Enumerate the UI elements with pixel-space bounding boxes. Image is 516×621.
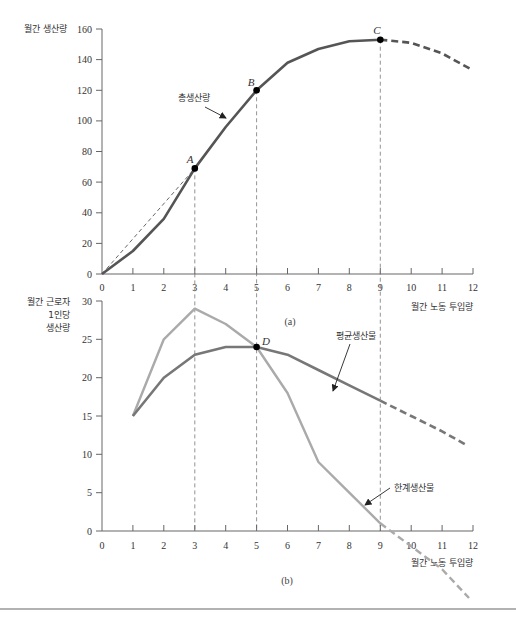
svg-text:60: 60 [82,177,92,188]
svg-text:7: 7 [316,540,321,551]
svg-text:80: 80 [82,146,92,157]
chart-a: 0 20 40 60 80 100 120 140 160 월간 생산량 0 1… [24,23,478,531]
chart-a-y-label: 월간 생산량 [24,23,67,34]
svg-text:12: 12 [468,282,478,293]
svg-text:10: 10 [406,282,416,293]
chart-b-panel-label: (b) [281,575,293,587]
svg-text:2: 2 [161,540,166,551]
average-product-curve-dashed [380,401,468,446]
svg-text:0: 0 [87,526,92,537]
svg-text:20: 20 [82,238,92,249]
svg-text:8: 8 [347,540,352,551]
chart-a-x-label: 월간 노동 투입량 [411,301,473,312]
svg-text:1인당: 1인당 [48,310,70,320]
svg-text:120: 120 [77,85,92,96]
svg-text:7: 7 [316,282,321,293]
svg-text:6: 6 [285,282,290,293]
svg-text:0: 0 [100,540,105,551]
svg-text:9: 9 [378,540,383,551]
ray-origin-to-a [102,168,195,274]
marginal-product-arrow [365,488,390,505]
svg-text:11: 11 [437,540,447,551]
chart-b-y-ticks [96,301,102,531]
svg-text:140: 140 [77,54,92,65]
svg-text:1: 1 [130,540,135,551]
chart-b-x-tick-labels: 0 1 2 3 4 5 6 7 8 9 10 11 12 [100,540,479,551]
chart-b-x-ticks [133,525,473,531]
svg-text:월간 근로자: 월간 근로자 [27,296,71,307]
svg-text:2: 2 [161,282,166,293]
svg-text:25: 25 [82,334,92,345]
svg-text:0: 0 [87,269,92,280]
svg-text:0: 0 [100,282,105,293]
chart-b-y-tick-labels: 0 5 10 15 20 25 30 [82,296,92,537]
svg-text:6: 6 [285,540,290,551]
point-d-label: D [261,335,270,347]
chart-b-x-label: 월간 노동 투입량 [411,557,473,568]
svg-text:20: 20 [82,372,92,383]
chart-a-x-tick-labels: 0 1 2 3 4 5 6 7 8 9 10 11 12 [100,282,479,293]
point-c-label: C [373,24,381,36]
average-product-label: 평균생산물 [336,331,376,341]
total-product-label: 총생산량 [178,92,210,103]
svg-text:4: 4 [223,540,228,551]
chart-b: 0 5 10 15 20 25 30 월간 근로자 1인당 생산량 0 1 2 … [27,296,478,599]
svg-text:15: 15 [82,411,92,422]
svg-text:30: 30 [82,296,92,307]
svg-text:10: 10 [82,449,92,460]
svg-text:5: 5 [87,487,92,498]
svg-text:생산량: 생산량 [46,322,70,333]
point-a-label: A [186,153,194,165]
svg-text:100: 100 [77,115,92,126]
svg-text:1: 1 [130,282,135,293]
chart-a-x-ticks [133,268,473,274]
production-charts: 0 20 40 60 80 100 120 140 160 월간 생산량 0 1… [0,0,516,621]
svg-text:8: 8 [347,282,352,293]
chart-a-panel-label: (a) [284,316,295,328]
marginal-product-label: 한계생산물 [394,482,434,493]
svg-text:3: 3 [192,540,197,551]
chart-b-y-label: 월간 근로자 1인당 생산량 [27,296,71,333]
total-product-curve [102,40,380,274]
chart-a-y-ticks [96,29,102,274]
svg-text:11: 11 [437,282,447,293]
total-product-curve-dashed [380,40,473,71]
point-d [253,344,260,351]
svg-text:160: 160 [77,24,92,35]
svg-text:40: 40 [82,207,92,218]
chart-a-y-tick-labels: 0 20 40 60 80 100 120 140 160 [77,24,92,280]
svg-text:12: 12 [468,540,478,551]
point-a [192,165,199,172]
total-product-arrow [205,107,226,118]
svg-text:4: 4 [223,282,228,293]
svg-text:5: 5 [254,540,259,551]
point-b-label: B [248,76,255,88]
point-c [377,36,384,43]
